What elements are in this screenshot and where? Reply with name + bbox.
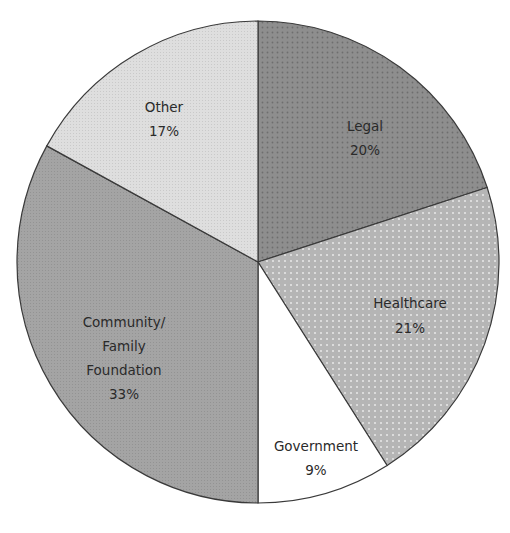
pie-slices	[17, 21, 499, 503]
community-label-line3: Foundation	[86, 362, 161, 378]
government-pct: 9%	[305, 462, 327, 478]
healthcare-pct: 21%	[395, 320, 425, 336]
community-label-line2: Family	[102, 338, 145, 354]
other-pct: 17%	[149, 123, 179, 139]
community-pct: 33%	[109, 386, 139, 402]
government-label: Government	[274, 438, 358, 454]
legal-pct: 20%	[350, 142, 380, 158]
other-label: Other	[145, 99, 184, 115]
community-label-line1: Community/	[83, 314, 166, 330]
legal-label: Legal	[347, 118, 383, 134]
healthcare-label: Healthcare	[373, 295, 447, 311]
pie-chart: Legal 20% Healthcare 21% Government 9% C…	[0, 0, 510, 533]
